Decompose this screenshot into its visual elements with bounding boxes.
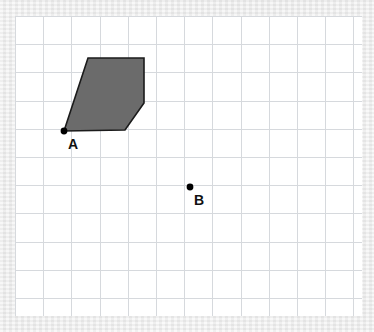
point-b-label: B [194, 193, 204, 207]
point-b-dot [187, 184, 194, 191]
shaded-pentagon-shape [64, 58, 144, 131]
point-a-label: A [68, 137, 78, 151]
plot-layer [0, 0, 374, 332]
point-a-dot [61, 128, 68, 135]
figure-root: A B [0, 0, 374, 332]
